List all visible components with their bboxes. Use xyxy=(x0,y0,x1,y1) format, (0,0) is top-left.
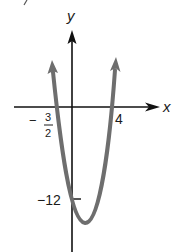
svg-text:3: 3 xyxy=(45,111,51,123)
x-axis-label: x xyxy=(162,98,171,115)
y-axis-label: y xyxy=(66,7,76,24)
y-axis xyxy=(68,30,77,252)
tick-label-neg-three-halves: − 3 2 xyxy=(29,111,53,139)
stray-mark xyxy=(24,0,27,5)
tick-label-neg-twelve: −12 xyxy=(37,192,61,208)
svg-text:−: − xyxy=(29,113,37,128)
x-axis xyxy=(14,103,160,112)
parabola-graph: y x − 3 2 4 −12 xyxy=(0,0,183,252)
tick-label-four: 4 xyxy=(115,111,123,127)
svg-text:2: 2 xyxy=(45,127,51,139)
